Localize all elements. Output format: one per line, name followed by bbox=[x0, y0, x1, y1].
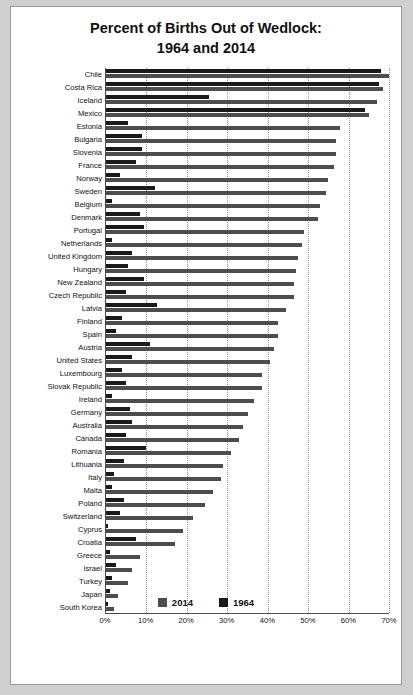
bar-1964 bbox=[106, 264, 128, 268]
category-label: Romania bbox=[72, 448, 102, 456]
legend-swatch-2014-icon bbox=[158, 598, 167, 607]
bar-row bbox=[106, 147, 389, 159]
category-label: Greece bbox=[77, 552, 102, 560]
bar-row bbox=[106, 160, 389, 172]
bar-row bbox=[106, 433, 389, 445]
bar-2014 bbox=[106, 152, 336, 156]
legend-item-2014: 2014 bbox=[158, 597, 193, 608]
bar-row bbox=[106, 576, 389, 588]
bar-2014 bbox=[106, 568, 132, 572]
category-label: Switzerland bbox=[63, 513, 102, 521]
legend-item-1964: 1964 bbox=[219, 597, 254, 608]
bar-1964 bbox=[106, 407, 130, 411]
x-tick-label: 70% bbox=[381, 616, 396, 625]
bar-1964 bbox=[106, 160, 136, 164]
bar-2014 bbox=[106, 464, 223, 468]
x-tick-label: 50% bbox=[300, 616, 315, 625]
bar-2014 bbox=[106, 529, 183, 533]
category-label: Norway bbox=[76, 175, 102, 183]
bar-1964 bbox=[106, 368, 122, 372]
bar-2014 bbox=[106, 386, 262, 390]
bar-2014 bbox=[106, 477, 221, 481]
bar-1964 bbox=[106, 550, 110, 554]
bar-2014 bbox=[106, 178, 328, 182]
bar-1964 bbox=[106, 316, 122, 320]
category-label: Portugal bbox=[74, 227, 102, 235]
bar-row bbox=[106, 186, 389, 198]
bar-2014 bbox=[106, 217, 318, 221]
bar-row bbox=[106, 498, 389, 510]
bar-row bbox=[106, 225, 389, 237]
bar-2014 bbox=[106, 230, 304, 234]
bar-1964 bbox=[106, 446, 146, 450]
bar-2014 bbox=[106, 555, 140, 559]
bar-1964 bbox=[106, 459, 124, 463]
bar-1964 bbox=[106, 134, 142, 138]
bar-2014 bbox=[106, 334, 278, 338]
bar-row bbox=[106, 368, 389, 380]
bar-row bbox=[106, 537, 389, 549]
bar-1964 bbox=[106, 199, 112, 203]
bar-1964 bbox=[106, 537, 136, 541]
x-tick-label: 30% bbox=[219, 616, 234, 625]
bar-row bbox=[106, 173, 389, 185]
bar-1964 bbox=[106, 485, 112, 489]
category-label: Austria bbox=[78, 344, 102, 352]
category-label: Estonia bbox=[77, 123, 102, 131]
chart-legend: 2014 1964 bbox=[11, 597, 401, 608]
bar-2014 bbox=[106, 139, 336, 143]
category-label: Turkey bbox=[79, 578, 102, 586]
bar-2014 bbox=[106, 126, 340, 130]
category-label: Finland bbox=[77, 318, 102, 326]
category-label: Luxembourg bbox=[60, 370, 102, 378]
bar-2014 bbox=[106, 100, 377, 104]
bar-2014 bbox=[106, 204, 320, 208]
bar-2014 bbox=[106, 425, 243, 429]
category-label: Slovenia bbox=[73, 149, 102, 157]
bar-row bbox=[106, 108, 389, 120]
bar-2014 bbox=[106, 191, 326, 195]
category-label: Spain bbox=[83, 331, 102, 339]
bar-1964 bbox=[106, 69, 381, 73]
bar-row bbox=[106, 511, 389, 523]
bar-row bbox=[106, 394, 389, 406]
bar-row bbox=[106, 69, 389, 81]
bar-2014 bbox=[106, 321, 278, 325]
bar-2014 bbox=[106, 373, 262, 377]
category-label: Netherlands bbox=[61, 240, 102, 248]
x-tick-label: 20% bbox=[179, 616, 194, 625]
bar-1964 bbox=[106, 82, 379, 86]
category-label: Belgium bbox=[75, 201, 102, 209]
bar-1964 bbox=[106, 576, 112, 580]
bar-2014 bbox=[106, 516, 193, 520]
bar-1964 bbox=[106, 121, 128, 125]
bar-row bbox=[106, 316, 389, 328]
bar-row bbox=[106, 381, 389, 393]
bar-2014 bbox=[106, 308, 286, 312]
category-label: Ireland bbox=[79, 396, 102, 404]
bar-row bbox=[106, 290, 389, 302]
bar-2014 bbox=[106, 165, 334, 169]
bar-1964 bbox=[106, 524, 108, 528]
bar-1964 bbox=[106, 212, 140, 216]
category-label: Czech Republic bbox=[49, 292, 102, 300]
bar-2014 bbox=[106, 113, 369, 117]
bar-1964 bbox=[106, 290, 126, 294]
bar-row bbox=[106, 550, 389, 562]
bar-1964 bbox=[106, 433, 126, 437]
chart-title-line-2: 1964 and 2014 bbox=[31, 39, 381, 59]
bar-2014 bbox=[106, 399, 254, 403]
bar-2014 bbox=[106, 503, 205, 507]
bar-1964 bbox=[106, 511, 120, 515]
chart-title: Percent of Births Out of Wedlock: 1964 a… bbox=[11, 7, 401, 62]
x-tick-label: 40% bbox=[260, 616, 275, 625]
category-label: Iceland bbox=[78, 97, 103, 105]
category-label: Chile bbox=[85, 71, 102, 79]
category-label: Croatia bbox=[78, 539, 102, 547]
category-label: Poland bbox=[78, 500, 102, 508]
bar-2014 bbox=[106, 490, 213, 494]
chart-card: Percent of Births Out of Wedlock: 1964 a… bbox=[10, 6, 402, 685]
bar-1964 bbox=[106, 186, 155, 190]
category-label: Australia bbox=[72, 422, 102, 430]
bar-row bbox=[106, 355, 389, 367]
